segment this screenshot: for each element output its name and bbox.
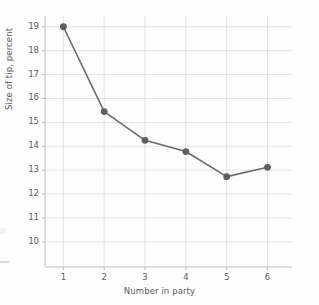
line-chart-plot bbox=[0, 0, 319, 305]
x-tick-label: 6 bbox=[258, 272, 278, 282]
left-edge-artifact-secondary bbox=[0, 228, 5, 234]
y-tick-label: 10 bbox=[17, 236, 39, 246]
y-tick-label: 19 bbox=[17, 21, 39, 31]
y-axis-title: Size of tip, percent bbox=[4, 0, 14, 110]
axis-spines bbox=[45, 16, 292, 267]
x-tick-label: 4 bbox=[176, 272, 196, 282]
data-point-marker bbox=[142, 137, 149, 144]
data-point-marker bbox=[182, 148, 189, 155]
chart-figure: 10111213141516171819 123456 Size of tip,… bbox=[0, 0, 319, 305]
x-axis-title: Number in party bbox=[0, 286, 319, 296]
gridlines bbox=[45, 16, 292, 267]
series-polyline bbox=[63, 27, 267, 177]
data-line bbox=[63, 27, 267, 177]
y-tick-label: 12 bbox=[17, 188, 39, 198]
data-markers bbox=[60, 23, 271, 180]
y-tick-label: 13 bbox=[17, 164, 39, 174]
y-tick-label: 18 bbox=[17, 45, 39, 55]
data-point-marker bbox=[223, 173, 230, 180]
data-point-marker bbox=[264, 164, 271, 171]
y-tick-label: 16 bbox=[17, 92, 39, 102]
x-tick-label: 5 bbox=[217, 272, 237, 282]
y-tick-label: 14 bbox=[17, 140, 39, 150]
data-point-marker bbox=[60, 23, 67, 30]
y-tick-label: 11 bbox=[17, 212, 39, 222]
y-tick-label: 17 bbox=[17, 69, 39, 79]
y-tick-label: 15 bbox=[17, 116, 39, 126]
axis-ticks bbox=[42, 27, 268, 270]
x-tick-label: 2 bbox=[94, 272, 114, 282]
x-tick-label: 1 bbox=[53, 272, 73, 282]
x-tick-label: 3 bbox=[135, 272, 155, 282]
data-point-marker bbox=[101, 108, 108, 115]
left-edge-artifact bbox=[0, 261, 9, 263]
